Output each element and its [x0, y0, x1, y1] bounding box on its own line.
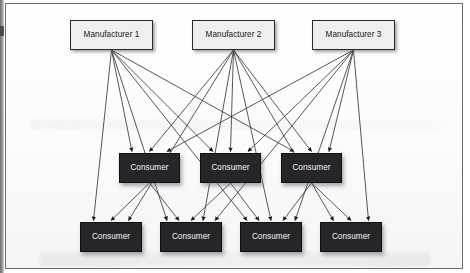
node-label: Consumer [172, 233, 210, 241]
page-gutter-mark [0, 26, 4, 36]
node-m3[interactable]: Manufacturer 3 [312, 20, 395, 50]
diagram-screenshot: Manufacturer 1Manufacturer 2Manufacturer… [0, 0, 470, 273]
page-gutter-strip [0, 0, 4, 273]
node-b3[interactable]: Consumer [240, 222, 302, 252]
node-label: Manufacturer 2 [206, 31, 262, 39]
node-c2[interactable]: Consumer [200, 153, 261, 183]
node-c1[interactable]: Consumer [119, 153, 180, 183]
node-label: Consumer [292, 164, 330, 172]
node-label: Manufacturer 1 [84, 31, 140, 39]
node-label: Consumer [252, 233, 290, 241]
node-label: Consumer [130, 164, 168, 172]
node-label: Consumer [92, 233, 130, 241]
node-m1[interactable]: Manufacturer 1 [70, 20, 153, 50]
node-b2[interactable]: Consumer [160, 222, 222, 252]
node-label: Consumer [332, 233, 370, 241]
node-label: Manufacturer 3 [326, 31, 382, 39]
node-b4[interactable]: Consumer [320, 222, 382, 252]
node-label: Consumer [211, 164, 249, 172]
node-m2[interactable]: Manufacturer 2 [192, 20, 275, 50]
node-c3[interactable]: Consumer [281, 153, 342, 183]
node-b1[interactable]: Consumer [80, 222, 142, 252]
